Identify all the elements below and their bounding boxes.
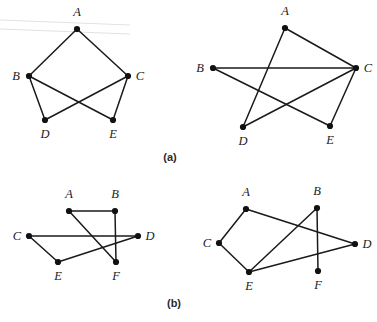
vertex-label-B: B xyxy=(12,69,20,83)
graph-edge-CE xyxy=(219,243,249,272)
graph-vertex-D xyxy=(240,124,246,130)
graph-vertex-C xyxy=(353,65,359,71)
figure-panel: ABCDEABCDE(a) xyxy=(12,4,373,163)
figure-panel: ABCDEFABCDEF(b) xyxy=(13,184,372,309)
graph-vertex-C xyxy=(125,73,131,79)
vertex-label-D: D xyxy=(144,229,154,243)
graph-vertex-F xyxy=(113,259,119,265)
graph-vertex-D xyxy=(135,233,141,239)
graph-vertex-E xyxy=(55,259,61,265)
graph-vertex-D xyxy=(42,117,48,123)
graph-edge-BE xyxy=(213,68,330,126)
vertex-label-E: E xyxy=(108,127,117,141)
vertex-label-D: D xyxy=(237,134,247,148)
graph-vertex-A xyxy=(74,26,80,32)
graph-vertex-F xyxy=(315,268,321,274)
graph-figure: ABCDEABCDE(a)ABCDEFABCDEF(b) xyxy=(0,0,377,322)
graph-a-left: ABCDE xyxy=(12,5,145,141)
graph-vertex-E xyxy=(246,269,252,275)
graph-edge-ED xyxy=(58,236,138,262)
graph-b-left: ABCDEF xyxy=(13,187,155,283)
graph-vertex-E xyxy=(110,117,116,123)
vertex-label-B: B xyxy=(196,61,204,75)
graph-edge-AB xyxy=(29,29,77,76)
vertex-label-B: B xyxy=(111,187,119,201)
vertex-label-A: A xyxy=(280,4,289,18)
graph-vertex-B xyxy=(26,73,32,79)
vertex-label-C: C xyxy=(13,229,22,243)
graph-vertex-B xyxy=(210,65,216,71)
vertex-label-F: F xyxy=(313,278,322,292)
graph-a-right: ABCDE xyxy=(196,4,373,148)
graph-edge-BF xyxy=(317,208,318,271)
graph-vertex-B xyxy=(112,208,118,214)
graph-vertex-E xyxy=(327,123,333,129)
vertex-label-E: E xyxy=(244,279,253,293)
graph-edge-CE xyxy=(330,68,356,126)
vertex-label-E: E xyxy=(325,133,334,147)
graph-vertex-A xyxy=(282,25,288,31)
graph-b-right: ABCDEF xyxy=(203,184,372,293)
graph-edge-AD xyxy=(243,28,285,127)
graph-vertex-A xyxy=(243,206,249,212)
graph-edge-AD xyxy=(246,209,355,244)
scan-line-artifact xyxy=(0,20,130,25)
graph-edge-BE xyxy=(29,76,113,120)
vertex-label-A: A xyxy=(241,185,250,199)
vertex-label-B: B xyxy=(313,184,321,198)
vertex-label-D: D xyxy=(39,127,49,141)
vertex-label-C: C xyxy=(203,236,212,250)
panel-caption: (a) xyxy=(163,151,177,163)
graph-vertex-C xyxy=(216,240,222,246)
graph-edge-AC xyxy=(77,29,128,76)
vertex-label-F: F xyxy=(111,269,120,283)
vertex-label-D: D xyxy=(361,237,371,251)
vertex-label-C: C xyxy=(364,61,373,75)
vertex-label-A: A xyxy=(72,5,81,19)
vertex-label-E: E xyxy=(53,269,62,283)
scan-line-artifact xyxy=(0,29,130,34)
panel-caption: (b) xyxy=(167,297,181,309)
graph-vertex-B xyxy=(314,205,320,211)
vertex-label-A: A xyxy=(64,187,73,201)
vertex-label-C: C xyxy=(136,69,145,83)
graph-vertex-C xyxy=(26,233,32,239)
graph-edge-CE xyxy=(29,236,58,262)
graph-edge-AC xyxy=(219,209,246,243)
graph-edge-CD xyxy=(243,68,356,127)
figure-root: ABCDEABCDE(a)ABCDEFABCDEF(b) xyxy=(0,0,377,322)
graph-vertex-D xyxy=(352,241,358,247)
graph-edge-AC xyxy=(285,28,356,68)
figure-layer: ABCDEABCDE(a)ABCDEFABCDEF(b) xyxy=(12,4,373,309)
graph-vertex-A xyxy=(66,208,72,214)
